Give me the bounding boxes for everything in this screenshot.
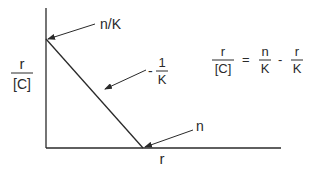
equation-term1-denominator: K	[261, 61, 270, 76]
equation-term1-numerator: n	[261, 44, 268, 59]
arrow-slope	[105, 70, 146, 89]
arrow-x-intercept	[145, 130, 193, 147]
equation-term2-denominator: K	[293, 61, 302, 76]
slope-numerator: 1	[158, 55, 165, 70]
plot-line	[46, 39, 143, 148]
arrow-y-intercept	[48, 24, 95, 39]
equation-term2-numerator: r	[295, 44, 300, 59]
x-axis-label: r	[160, 150, 165, 167]
y-axis-label-denominator: [C]	[13, 76, 31, 92]
equation-equals: =	[242, 52, 250, 67]
equation-minus: -	[278, 52, 282, 67]
scatchard-diagram: r [C] r n/K - 1 K n r [C] = n K - r K	[0, 0, 314, 173]
x-intercept-label: n	[196, 118, 204, 134]
equation-lhs-numerator: r	[221, 44, 226, 59]
equation-lhs-denominator: [C]	[215, 61, 232, 76]
slope-sign: -	[148, 63, 153, 79]
scatchard-equation: r [C] = n K - r K	[212, 44, 303, 76]
y-intercept-label: n/K	[100, 16, 122, 32]
slope-denominator: K	[158, 72, 167, 87]
y-axis-label-numerator: r	[20, 55, 25, 72]
